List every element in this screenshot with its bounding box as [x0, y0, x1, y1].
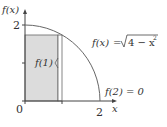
y-axis-arrow-icon — [23, 9, 27, 14]
y-tick-label: 2 — [13, 19, 20, 32]
diagram-canvas: f(x) 2 0 2 x f(1) f(x) = 4 − x 2 f(2) = … — [0, 0, 167, 127]
rect-height-label: f(1) — [34, 57, 53, 68]
function-exp: 2 — [153, 34, 157, 41]
x-tick-label: 2 — [96, 106, 103, 119]
y-axis-label: f(x) — [1, 4, 19, 15]
function-eq: = — [113, 37, 121, 48]
shaded-rectangle — [25, 35, 58, 101]
x-axis-label: x — [112, 103, 118, 114]
function-rhs: 4 − x — [128, 37, 155, 48]
endpoint-label: f(2) = 0 — [104, 86, 145, 97]
function-lhs: f(x) — [91, 37, 109, 48]
riemann-diagram: f(x) 2 0 2 x f(1) f(x) = 4 − x 2 f(2) = … — [0, 0, 167, 127]
thin-strip — [58, 35, 62, 101]
origin-label: 0 — [16, 103, 23, 116]
